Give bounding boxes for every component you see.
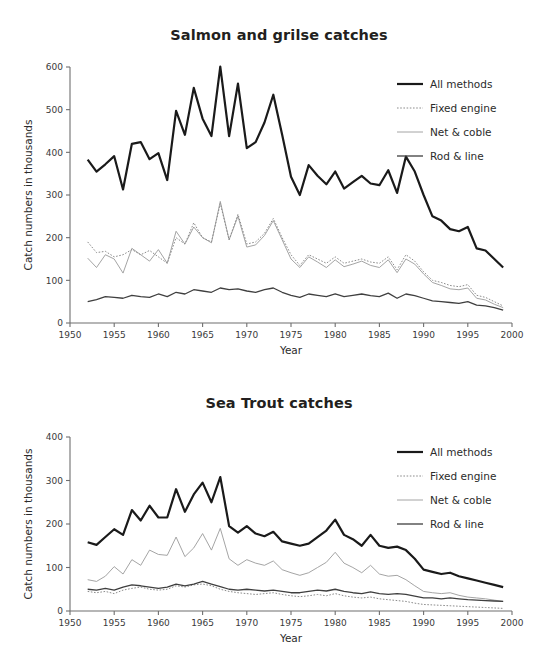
x-axis-title: Year [279,632,303,644]
x-tick-label: 1955 [103,618,126,628]
legend-label-net-coble: Net & coble [430,126,492,138]
series-line-fixed-engine [88,204,503,306]
seatrout-plot-svg: 0100200300400195019551960196519701975198… [0,370,558,667]
x-tick-label: 2000 [501,330,524,340]
x-tick-label: 1960 [147,330,170,340]
y-axis-title: Catch numbers in thousands [22,449,34,600]
x-tick-label: 1990 [412,330,435,340]
y-tick-label: 100 [46,276,63,286]
legend-label-fixed-engine: Fixed engine [430,102,496,114]
series-line-rod-line [88,288,503,310]
x-tick-label: 1965 [191,330,214,340]
y-tick-label: 400 [46,432,63,442]
x-tick-label: 1980 [324,618,347,628]
x-tick-label: 1995 [456,618,479,628]
x-tick-label: 1990 [412,618,435,628]
x-tick-label: 1950 [59,330,82,340]
x-tick-label: 1965 [191,618,214,628]
legend-label-all-methods: All methods [430,78,492,90]
y-tick-label: 600 [46,62,63,72]
x-tick-label: 1975 [280,618,303,628]
legend-label-fixed-engine: Fixed engine [430,470,496,482]
x-tick-label: 1955 [103,330,126,340]
legend-label-net-coble: Net & coble [430,494,492,506]
x-tick-label: 1960 [147,618,170,628]
series-line-all-methods [88,67,503,268]
y-tick-label: 500 [46,105,63,115]
series-line-net-coble [88,528,503,601]
x-tick-label: 1970 [235,330,258,340]
legend-label-rod-line: Rod & line [430,518,484,530]
series-line-rod-line [88,581,503,601]
sea-trout-chart: Sea Trout catches 0100200300400195019551… [0,370,558,667]
x-tick-label: 1980 [324,330,347,340]
x-tick-label: 1970 [235,618,258,628]
y-axis-title: Catch numbers in thousands [22,120,34,271]
x-tick-label: 1985 [368,330,391,340]
legend-label-rod-line: Rod & line [430,150,484,162]
x-tick-label: 1950 [59,618,82,628]
y-tick-label: 200 [46,519,63,529]
x-tick-label: 1975 [280,330,303,340]
x-axis-title: Year [279,344,303,356]
y-tick-label: 200 [46,233,63,243]
x-tick-label: 1995 [456,330,479,340]
y-tick-label: 0 [57,606,63,616]
y-tick-label: 0 [57,318,63,328]
salmon-grilse-chart: Salmon and grilse catches 01002003004005… [0,0,558,370]
y-tick-label: 300 [46,190,63,200]
x-tick-label: 2000 [501,618,524,628]
y-tick-label: 100 [46,563,63,573]
salmon-plot-svg: 0100200300400500600195019551960196519701… [0,0,558,370]
legend-label-all-methods: All methods [430,446,492,458]
y-tick-label: 300 [46,476,63,486]
y-tick-label: 400 [46,148,63,158]
x-tick-label: 1985 [368,618,391,628]
series-line-net-coble [88,201,503,307]
